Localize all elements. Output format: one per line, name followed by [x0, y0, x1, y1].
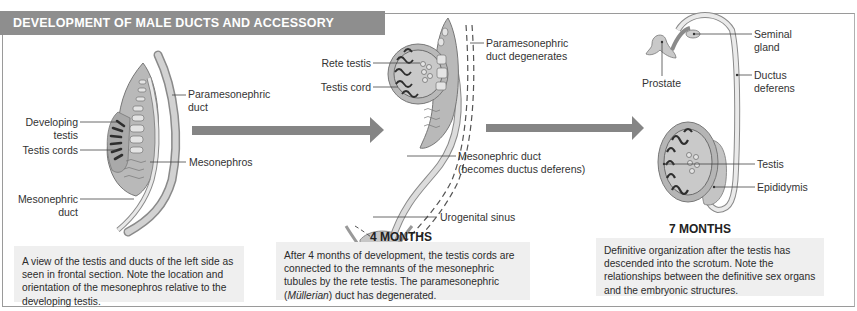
progression-arrow-1	[192, 117, 384, 143]
stage-label-7-months: 7 MONTHS	[669, 222, 731, 236]
caption-italic-mullerian: Müllerian	[287, 290, 328, 301]
panel-3-illustration	[646, 15, 755, 210]
label-testis-cord: Testis cord	[300, 81, 371, 94]
label-testis: Testis	[757, 158, 784, 171]
label-testis-cords: Testis cords	[10, 144, 78, 157]
label-rete-testis: Rete testis	[300, 57, 371, 70]
label-seminal-gland: Seminal gland	[754, 28, 792, 54]
label-prostate: Prostate	[642, 77, 681, 90]
caption-panel-3: Definitive organization after the testis…	[596, 238, 824, 296]
label-developing-testis: Developing testis	[22, 116, 78, 142]
label-mesonephric-duct: Mesonephric duct	[8, 193, 78, 219]
caption-panel-1: A view of the testis and ducts of the le…	[14, 246, 244, 302]
label-ductus-deferens: Ductus deferens	[754, 69, 795, 95]
progression-arrow-2	[486, 116, 644, 140]
label-paramesonephric-duct: Paramesonephric duct	[188, 88, 270, 114]
panel-1-illustration	[80, 55, 186, 232]
label-epididymis: Epididymis	[757, 181, 808, 194]
label-mesonephric-duct-4mo: Mesonephric duct (becomes ductus deferen…	[458, 150, 585, 176]
label-paramesonephric-degenerates: Paramesonephric duct degenerates	[486, 37, 568, 63]
label-urogenital-sinus: Urogenital sinus	[440, 211, 515, 224]
caption-panel-2: After 4 months of development, the testi…	[276, 242, 530, 300]
label-mesonephros: Mesonephros	[189, 156, 253, 169]
